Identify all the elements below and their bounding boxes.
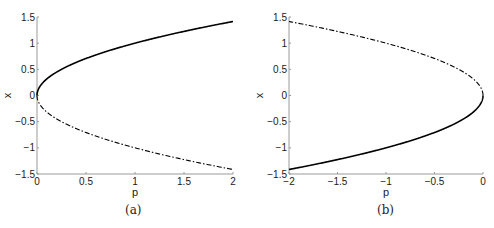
y-tick-label: 0.5 [21, 64, 35, 75]
y-tick-label: −0.5 [267, 116, 287, 127]
y-tick-label: −1 [24, 142, 36, 153]
x-tick-label: 2 [230, 176, 236, 187]
y-tick-label: 1 [281, 38, 287, 49]
y-tick-label: −1.5 [267, 169, 287, 180]
unstable-branch-curve [289, 21, 483, 95]
y-tick-label: 0.5 [273, 64, 287, 75]
stable-branch-curve [37, 21, 233, 95]
y-tick-label: 1.5 [21, 12, 35, 23]
unstable-branch-curve [37, 96, 233, 170]
x-tick-label: −0.5 [425, 176, 445, 187]
x-axis-label: p [132, 186, 138, 198]
chart-panel-a: 00.511.52−1.5−1−0.500.511.5px (a) [0, 0, 247, 228]
y-tick-label: −1.5 [15, 169, 35, 180]
y-tick-label: 0 [281, 90, 287, 101]
y-axis-label: x [1, 92, 13, 98]
y-tick-label: −0.5 [15, 116, 35, 127]
x-tick-label: −1.5 [328, 176, 348, 187]
caption-b: (b) [377, 203, 394, 217]
chart-panel-b: −2−1.5−1−0.50−1.5−1−0.500.511.5px (b) [247, 0, 494, 228]
y-tick-label: 1.5 [273, 12, 287, 23]
y-tick-label: −1 [276, 142, 288, 153]
y-axis-label: x [253, 92, 265, 98]
y-tick-label: 0 [29, 90, 35, 101]
caption-a: (a) [125, 203, 142, 217]
x-tick-label: 0 [480, 176, 486, 187]
x-tick-label: 1.5 [177, 176, 191, 187]
plot-b: −2−1.5−1−0.50−1.5−1−0.500.511.5px [247, 0, 494, 228]
x-tick-label: 0 [34, 176, 40, 187]
plot-a: 00.511.52−1.5−1−0.500.511.5px [0, 0, 247, 228]
x-axis-label: p [383, 186, 389, 198]
y-tick-label: 1 [29, 38, 35, 49]
stable-branch-curve [289, 96, 483, 170]
x-tick-label: 0.5 [79, 176, 93, 187]
